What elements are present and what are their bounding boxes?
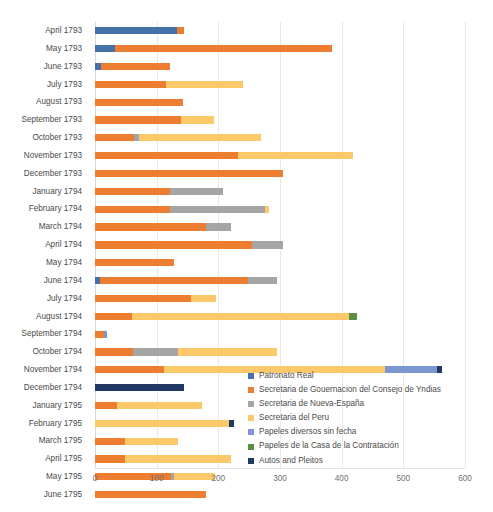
bar-segment[interactable] <box>95 455 125 462</box>
stacked-bar[interactable] <box>95 455 231 462</box>
bar-row[interactable] <box>95 183 465 201</box>
stacked-bar[interactable] <box>95 295 216 302</box>
bar-segment[interactable] <box>95 295 191 302</box>
stacked-bar[interactable] <box>95 206 270 213</box>
bar-row[interactable] <box>95 165 465 183</box>
bar-row[interactable] <box>95 76 465 94</box>
bar-segment[interactable] <box>170 206 264 213</box>
bar-row[interactable] <box>95 290 465 308</box>
bar-row[interactable] <box>95 325 465 343</box>
bar-segment[interactable] <box>95 402 117 409</box>
bar-segment[interactable] <box>248 277 277 284</box>
bar-segment[interactable] <box>133 348 178 355</box>
bar-segment[interactable] <box>132 313 349 320</box>
stacked-bar[interactable] <box>95 81 243 88</box>
bar-segment[interactable] <box>265 206 270 213</box>
stacked-bar[interactable] <box>95 63 170 70</box>
bar-segment[interactable] <box>349 313 357 320</box>
bar-segment[interactable] <box>104 331 107 338</box>
bar-segment[interactable] <box>95 348 133 355</box>
bar-segment[interactable] <box>95 206 170 213</box>
bar-row[interactable] <box>95 40 465 58</box>
bar-row[interactable] <box>95 129 465 147</box>
bar-row[interactable] <box>95 236 465 254</box>
stacked-bar[interactable] <box>95 223 231 230</box>
stacked-bar[interactable] <box>95 170 283 177</box>
bar-segment[interactable] <box>95 81 166 88</box>
legend-item[interactable]: Autos and Pleitos <box>248 454 488 468</box>
stacked-bar[interactable] <box>95 348 277 355</box>
bar-segment[interactable] <box>139 134 261 141</box>
stacked-bar[interactable] <box>95 45 332 52</box>
stacked-bar[interactable] <box>95 384 184 391</box>
stacked-bar[interactable] <box>95 27 184 34</box>
bar-segment[interactable] <box>95 313 132 320</box>
bar-segment[interactable] <box>95 134 134 141</box>
bar-segment[interactable] <box>125 455 231 462</box>
bar-row[interactable] <box>95 272 465 290</box>
bar-segment[interactable] <box>115 45 332 52</box>
bar-segment[interactable] <box>95 223 206 230</box>
bar-segment[interactable] <box>101 63 170 70</box>
bar-segment[interactable] <box>117 402 202 409</box>
bar-segment[interactable] <box>125 438 179 445</box>
legend-item[interactable]: Papeles de la Casa de la Contratación <box>248 439 488 453</box>
stacked-bar[interactable] <box>95 313 357 320</box>
bar-row[interactable] <box>95 486 465 504</box>
legend-item[interactable]: Secretaria de Nueva-España <box>248 397 488 411</box>
stacked-bar[interactable] <box>95 188 223 195</box>
stacked-bar[interactable] <box>95 331 107 338</box>
bar-segment[interactable] <box>206 223 231 230</box>
bar-segment[interactable] <box>229 420 233 427</box>
bar-segment[interactable] <box>95 27 177 34</box>
bar-segment[interactable] <box>95 384 184 391</box>
bar-segment[interactable] <box>95 331 104 338</box>
bar-segment[interactable] <box>95 45 115 52</box>
legend-item[interactable]: Papeles diversos sin fecha <box>248 425 488 439</box>
bar-segment[interactable] <box>178 348 277 355</box>
bar-segment[interactable] <box>95 241 252 248</box>
stacked-bar[interactable] <box>95 277 277 284</box>
bar-row[interactable] <box>95 200 465 218</box>
bar-segment[interactable] <box>191 295 216 302</box>
stacked-bar[interactable] <box>95 402 202 409</box>
bar-segment[interactable] <box>95 438 125 445</box>
bar-segment[interactable] <box>252 241 283 248</box>
bar-row[interactable] <box>95 308 465 326</box>
bar-row[interactable] <box>95 147 465 165</box>
stacked-bar[interactable] <box>95 116 214 123</box>
bar-segment[interactable] <box>166 81 243 88</box>
bar-row[interactable] <box>95 58 465 76</box>
bar-segment[interactable] <box>177 27 184 34</box>
bar-segment[interactable] <box>181 116 214 123</box>
bar-segment[interactable] <box>95 99 183 106</box>
stacked-bar[interactable] <box>95 99 183 106</box>
stacked-bar[interactable] <box>95 438 178 445</box>
bar-segment[interactable] <box>238 152 353 159</box>
bar-row[interactable] <box>95 22 465 40</box>
bar-row[interactable] <box>95 111 465 129</box>
bar-segment[interactable] <box>95 170 283 177</box>
bar-segment[interactable] <box>95 420 229 427</box>
legend-item[interactable]: Patronato Real <box>248 369 488 383</box>
bar-segment[interactable] <box>95 259 174 266</box>
bar-row[interactable] <box>95 343 465 361</box>
bar-segment[interactable] <box>95 116 181 123</box>
bar-segment[interactable] <box>95 491 206 498</box>
stacked-bar[interactable] <box>95 420 234 427</box>
stacked-bar[interactable] <box>95 134 262 141</box>
stacked-bar[interactable] <box>95 241 283 248</box>
bar-segment[interactable] <box>170 188 222 195</box>
stacked-bar[interactable] <box>95 491 206 498</box>
stacked-bar[interactable] <box>95 259 174 266</box>
bar-segment[interactable] <box>95 152 238 159</box>
bar-row[interactable] <box>95 218 465 236</box>
stacked-bar[interactable] <box>95 152 353 159</box>
bar-segment[interactable] <box>95 188 170 195</box>
bar-row[interactable] <box>95 93 465 111</box>
bar-segment[interactable] <box>95 366 164 373</box>
bar-row[interactable] <box>95 254 465 272</box>
legend-item[interactable]: Secretaria del Peru <box>248 411 488 425</box>
legend-item[interactable]: Secretaria de Gouernacion del Consejo de… <box>248 383 488 397</box>
bar-segment[interactable] <box>100 277 248 284</box>
